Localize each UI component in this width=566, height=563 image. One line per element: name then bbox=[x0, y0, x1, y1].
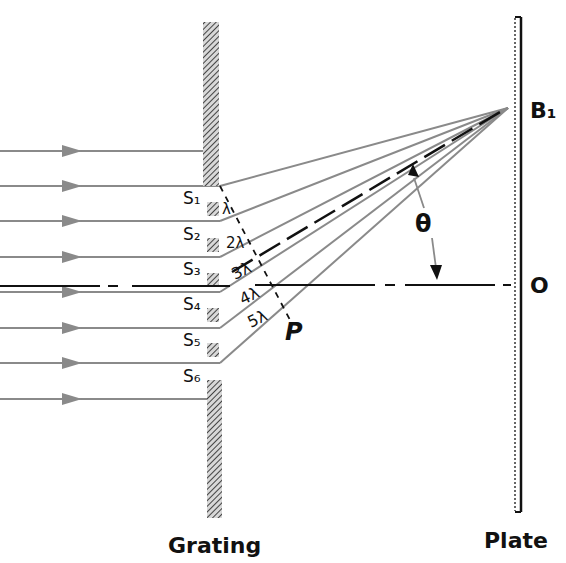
slit-label-2: S₂ bbox=[183, 224, 201, 244]
slit-label-1: S₁ bbox=[183, 188, 201, 208]
slit-label-5: S₅ bbox=[183, 330, 201, 350]
plate bbox=[515, 17, 521, 512]
grating-diagram: B₁ O θ P S₁ S₂ S₃ S₄ S₅ S₆ λ 2λ 3λ 4λ 5λ… bbox=[0, 0, 566, 563]
slit-label-6: S₆ bbox=[183, 366, 201, 386]
grating bbox=[203, 22, 222, 518]
path-difference-labels: λ 2λ 3λ 4λ 5λ bbox=[222, 200, 270, 332]
slit-label-4: S₄ bbox=[183, 294, 201, 314]
grating-label: Grating bbox=[168, 533, 261, 558]
theta-direction-line bbox=[232, 112, 500, 272]
point-o-label: O bbox=[530, 273, 549, 298]
path-diff-4: 4λ bbox=[237, 283, 263, 309]
slit-label-3: S₃ bbox=[183, 259, 201, 279]
path-diff-5: 5λ bbox=[245, 306, 271, 332]
perpendicular-label: P bbox=[285, 318, 303, 346]
path-diff-1: λ bbox=[222, 200, 231, 218]
point-b1-label: B₁ bbox=[530, 98, 556, 123]
ray-arrowheads bbox=[62, 145, 82, 405]
path-diff-2: 2λ bbox=[226, 234, 245, 252]
theta-label: θ bbox=[415, 210, 432, 238]
plate-label: Plate bbox=[484, 528, 548, 553]
